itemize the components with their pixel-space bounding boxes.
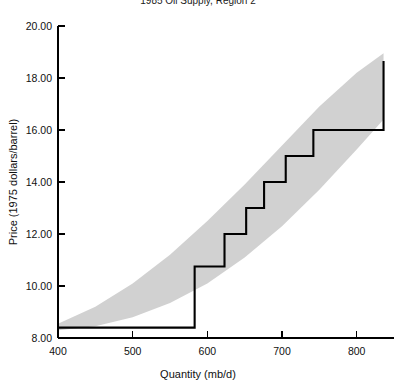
chart-plot-area: 8.0010.0012.0014.0016.0018.0020.00 40050… bbox=[0, 0, 396, 383]
x-tick-label: 700 bbox=[273, 345, 291, 357]
x-tick-label: 500 bbox=[124, 345, 142, 357]
y-tick-label: 14.00 bbox=[26, 176, 52, 188]
y-tick-label: 8.00 bbox=[32, 332, 53, 344]
x-tick-label: 800 bbox=[348, 345, 366, 357]
x-axis-tick-labels: 400500600700800 bbox=[49, 345, 365, 357]
x-axis-title: Quantity (mb/d) bbox=[160, 368, 236, 380]
y-axis-ticks bbox=[58, 26, 65, 338]
y-tick-label: 18.00 bbox=[26, 72, 52, 84]
x-tick-label: 400 bbox=[49, 345, 67, 357]
y-tick-label: 10.00 bbox=[26, 280, 52, 292]
y-tick-label: 16.00 bbox=[26, 124, 52, 136]
y-tick-label: 20.00 bbox=[26, 20, 52, 32]
y-axis-title: Price (1975 dollars/barrel) bbox=[7, 119, 19, 246]
x-tick-label: 600 bbox=[199, 345, 217, 357]
y-tick-label: 12.00 bbox=[26, 228, 52, 240]
chart-figure: 1985 Oil Supply, Region 2 8.0010.0012.00… bbox=[0, 0, 396, 383]
x-axis-ticks bbox=[58, 331, 357, 338]
y-axis-tick-labels: 8.0010.0012.0014.0016.0018.0020.00 bbox=[26, 20, 52, 344]
uncertainty-band bbox=[58, 53, 384, 330]
